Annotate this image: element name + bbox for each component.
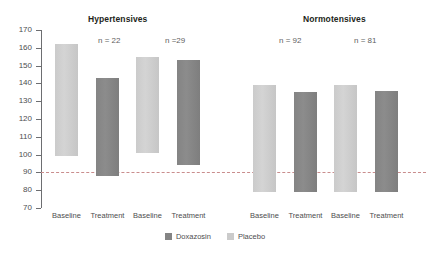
sample-size-label-hypertensives-1: n = 22 [98, 36, 120, 45]
sample-size-label-normotensives-1: n = 92 [279, 36, 301, 45]
legend-swatch-placebo-icon [227, 233, 234, 240]
bar-treatment-doxazosin [294, 92, 317, 192]
x-axis-label: Treatment [163, 211, 215, 220]
bar-treatment-doxazosin [375, 91, 398, 192]
blood-pressure-range-chart: Hypertensives Normotensives n = 22 n =29… [0, 0, 430, 259]
y-axis-tick-label: 80 [8, 186, 32, 194]
sample-size-label-hypertensives-2: n =29 [165, 36, 185, 45]
y-axis-tick [36, 48, 41, 49]
panel-title-normotensives: Normotensives [303, 14, 366, 24]
y-axis-tick [36, 190, 41, 191]
y-axis-tick-label: 160 [8, 44, 32, 52]
bar-baseline-placebo [136, 57, 159, 153]
y-axis-tick-label: 150 [8, 62, 32, 70]
y-axis-tick-label: 170 [8, 26, 32, 34]
legend-label-placebo: Placebo [238, 232, 265, 241]
y-axis-tick [36, 101, 41, 102]
bar-baseline-placebo [253, 85, 276, 192]
y-axis-tick-label: 120 [8, 115, 32, 123]
y-axis-tick-label: 100 [8, 151, 32, 159]
bar-treatment-doxazosin [177, 60, 200, 165]
legend-label-doxazosin: Doxazosin [176, 232, 211, 241]
y-axis-tick [36, 66, 41, 67]
y-axis-line [41, 30, 42, 208]
y-axis-tick [36, 119, 41, 120]
y-axis-tick-label: 70 [8, 204, 32, 212]
legend-item-placebo: Placebo [227, 232, 265, 241]
panel-title-hypertensives: Hypertensives [88, 14, 147, 24]
bar-baseline-placebo [334, 85, 357, 192]
y-axis-tick [36, 208, 41, 209]
legend-swatch-doxazosin-icon [165, 233, 172, 240]
y-axis-tick [36, 30, 41, 31]
x-axis-label: Treatment [361, 211, 413, 220]
y-axis-tick-label: 110 [8, 133, 32, 141]
y-axis-tick-label: 130 [8, 97, 32, 105]
y-axis-tick [36, 83, 41, 84]
chart-legend: Doxazosin Placebo [0, 232, 430, 241]
y-axis-tick [36, 137, 41, 138]
bar-baseline-placebo [55, 44, 78, 156]
y-axis-tick [36, 155, 41, 156]
legend-item-doxazosin: Doxazosin [165, 232, 211, 241]
y-axis-tick-label: 90 [8, 168, 32, 176]
y-axis-tick-label: 140 [8, 79, 32, 87]
bar-treatment-doxazosin [96, 78, 119, 176]
sample-size-label-normotensives-2: n = 81 [354, 36, 376, 45]
